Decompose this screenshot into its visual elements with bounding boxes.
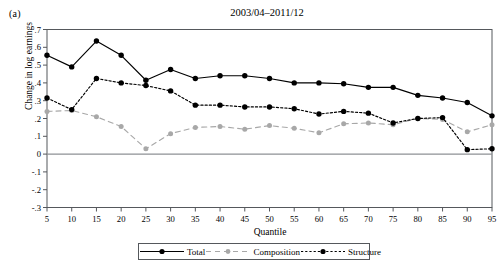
svg-text:45: 45 xyxy=(240,214,249,224)
data-point xyxy=(489,146,494,151)
data-point xyxy=(193,125,198,130)
data-point xyxy=(440,95,445,100)
svg-text:.4: .4 xyxy=(35,78,42,88)
data-point xyxy=(143,146,148,151)
data-point xyxy=(292,106,297,111)
data-point xyxy=(490,122,495,127)
data-point xyxy=(267,123,272,128)
data-point xyxy=(415,93,420,98)
y-axis-label: Change in log earnings xyxy=(24,0,34,141)
svg-text:15: 15 xyxy=(92,214,101,224)
legend-label-total: Total xyxy=(187,247,205,257)
svg-text:.3: .3 xyxy=(35,96,41,106)
data-point xyxy=(316,80,321,85)
data-point xyxy=(341,109,346,114)
data-point xyxy=(341,81,346,86)
data-point xyxy=(292,80,297,85)
legend-item-composition: Composition xyxy=(205,246,300,257)
svg-text:10: 10 xyxy=(67,214,76,224)
svg-text:75: 75 xyxy=(389,214,398,224)
svg-text:20: 20 xyxy=(117,214,126,224)
data-point xyxy=(366,110,371,115)
data-point xyxy=(94,76,99,81)
data-point xyxy=(242,127,247,132)
svg-text:.5: .5 xyxy=(35,60,41,70)
data-point xyxy=(193,102,198,107)
data-point xyxy=(366,85,371,90)
data-point xyxy=(292,126,297,131)
legend-swatch-total-icon xyxy=(139,246,185,257)
svg-text:30: 30 xyxy=(166,214,175,224)
chart-figure: (a) 2003/04–2011/12 .7.6.5.4.3.2.10-.1-.… xyxy=(0,0,504,277)
svg-text:-.2: -.2 xyxy=(32,185,41,195)
svg-text:-.1: -.1 xyxy=(32,167,41,177)
svg-text:.6: .6 xyxy=(35,42,42,52)
chart-legend: Total Composition Structure xyxy=(138,243,370,260)
svg-text:95: 95 xyxy=(488,214,497,224)
svg-text:80: 80 xyxy=(414,214,423,224)
svg-text:55: 55 xyxy=(290,214,299,224)
data-point xyxy=(366,120,371,125)
svg-text:60: 60 xyxy=(315,214,324,224)
svg-text:0: 0 xyxy=(37,149,41,159)
legend-label-structure: Structure xyxy=(348,247,381,257)
svg-text:.1: .1 xyxy=(35,131,41,141)
svg-text:.2: .2 xyxy=(35,114,41,124)
data-point xyxy=(390,120,395,125)
data-point xyxy=(44,95,49,100)
data-point xyxy=(316,111,321,116)
data-point xyxy=(267,76,272,81)
svg-text:90: 90 xyxy=(463,214,472,224)
x-axis-label: Quantile xyxy=(0,227,504,237)
data-point xyxy=(94,114,99,119)
data-point xyxy=(440,115,445,120)
data-point xyxy=(168,88,173,93)
svg-text:70: 70 xyxy=(364,214,373,224)
svg-text:.7: .7 xyxy=(35,25,42,35)
data-point xyxy=(143,83,148,88)
series-composition xyxy=(45,108,495,151)
legend-item-total: Total xyxy=(139,246,205,257)
legend-swatch-composition-icon xyxy=(205,246,251,257)
data-point xyxy=(193,76,198,81)
legend-item-structure: Structure xyxy=(300,246,381,257)
data-point xyxy=(489,113,494,118)
data-point xyxy=(217,102,222,107)
svg-text:-.3: -.3 xyxy=(32,203,41,213)
data-point xyxy=(465,129,470,134)
data-point xyxy=(118,80,123,85)
data-point xyxy=(119,124,124,129)
svg-text:25: 25 xyxy=(142,214,151,224)
svg-text:40: 40 xyxy=(216,214,225,224)
data-point xyxy=(267,104,272,109)
data-point xyxy=(45,109,50,114)
data-point xyxy=(69,64,74,69)
data-point xyxy=(168,131,173,136)
data-point xyxy=(242,104,247,109)
data-point xyxy=(168,67,173,72)
data-point xyxy=(341,121,346,126)
svg-text:5: 5 xyxy=(45,214,49,224)
data-point xyxy=(94,38,99,43)
data-point xyxy=(390,85,395,90)
data-point xyxy=(415,116,420,121)
series-structure xyxy=(44,76,494,153)
svg-text:85: 85 xyxy=(438,214,447,224)
legend-label-composition: Composition xyxy=(253,247,300,257)
data-series-group xyxy=(44,38,494,152)
data-point xyxy=(118,53,123,58)
legend-swatch-structure-icon xyxy=(300,246,346,257)
data-point xyxy=(69,107,74,112)
data-point xyxy=(218,124,223,129)
data-point xyxy=(217,73,222,78)
data-point xyxy=(143,78,148,83)
x-axis-ticks: 5101520253035404550556065707580859095 xyxy=(45,208,496,224)
data-point xyxy=(242,73,247,78)
svg-text:65: 65 xyxy=(339,214,348,224)
svg-text:50: 50 xyxy=(265,214,274,224)
data-point xyxy=(465,100,470,105)
data-point xyxy=(465,147,470,152)
data-point xyxy=(316,130,321,135)
svg-text:35: 35 xyxy=(191,214,200,224)
data-point xyxy=(44,53,49,58)
